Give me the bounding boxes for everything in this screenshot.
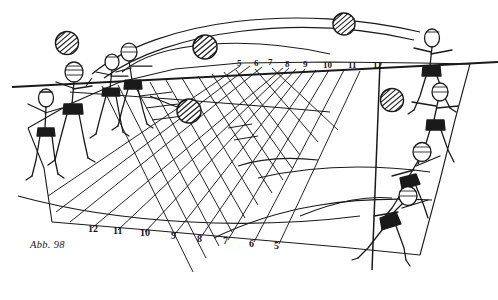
zone-number-far-7: 7 — [268, 58, 273, 67]
zone-number-far-8: 8 — [285, 60, 290, 69]
ball-4 — [55, 31, 78, 54]
player-left-2 — [48, 62, 95, 165]
zone-number-far-6: 6 — [254, 59, 259, 68]
player-left-1 — [26, 89, 64, 180]
zone-number-far-10: 10 — [323, 61, 332, 70]
zone-number-near-6: 6 — [249, 239, 254, 249]
player-right-3 — [382, 143, 440, 221]
zone-number-near-11: 11 — [113, 226, 122, 236]
ball-5 — [380, 88, 403, 111]
zone-number-far-5: 5 — [237, 59, 242, 68]
diagram-canvas — [0, 0, 498, 300]
figure-caption: Abb. 98 — [30, 239, 65, 250]
figure-volleyball-diagram: 5 6 7 8 9 10 11 12 12 11 10 9 8 7 6 5 Ab… — [0, 0, 498, 300]
zone-number-near-5: 5 — [274, 241, 279, 251]
zone-number-near-7: 7 — [223, 236, 228, 246]
ball-1 — [193, 35, 217, 59]
player-right-1 — [408, 29, 456, 114]
ball-2 — [333, 13, 355, 35]
zone-number-near-8: 8 — [197, 234, 202, 244]
zone-number-far-11: 11 — [348, 61, 357, 70]
ball-3 — [177, 99, 201, 123]
zone-number-near-10: 10 — [140, 228, 150, 238]
zone-number-far-9: 9 — [303, 60, 308, 69]
zone-number-near-9: 9 — [171, 231, 176, 241]
zone-number-far-12: 12 — [373, 61, 382, 70]
zone-number-near-12: 12 — [88, 224, 98, 234]
